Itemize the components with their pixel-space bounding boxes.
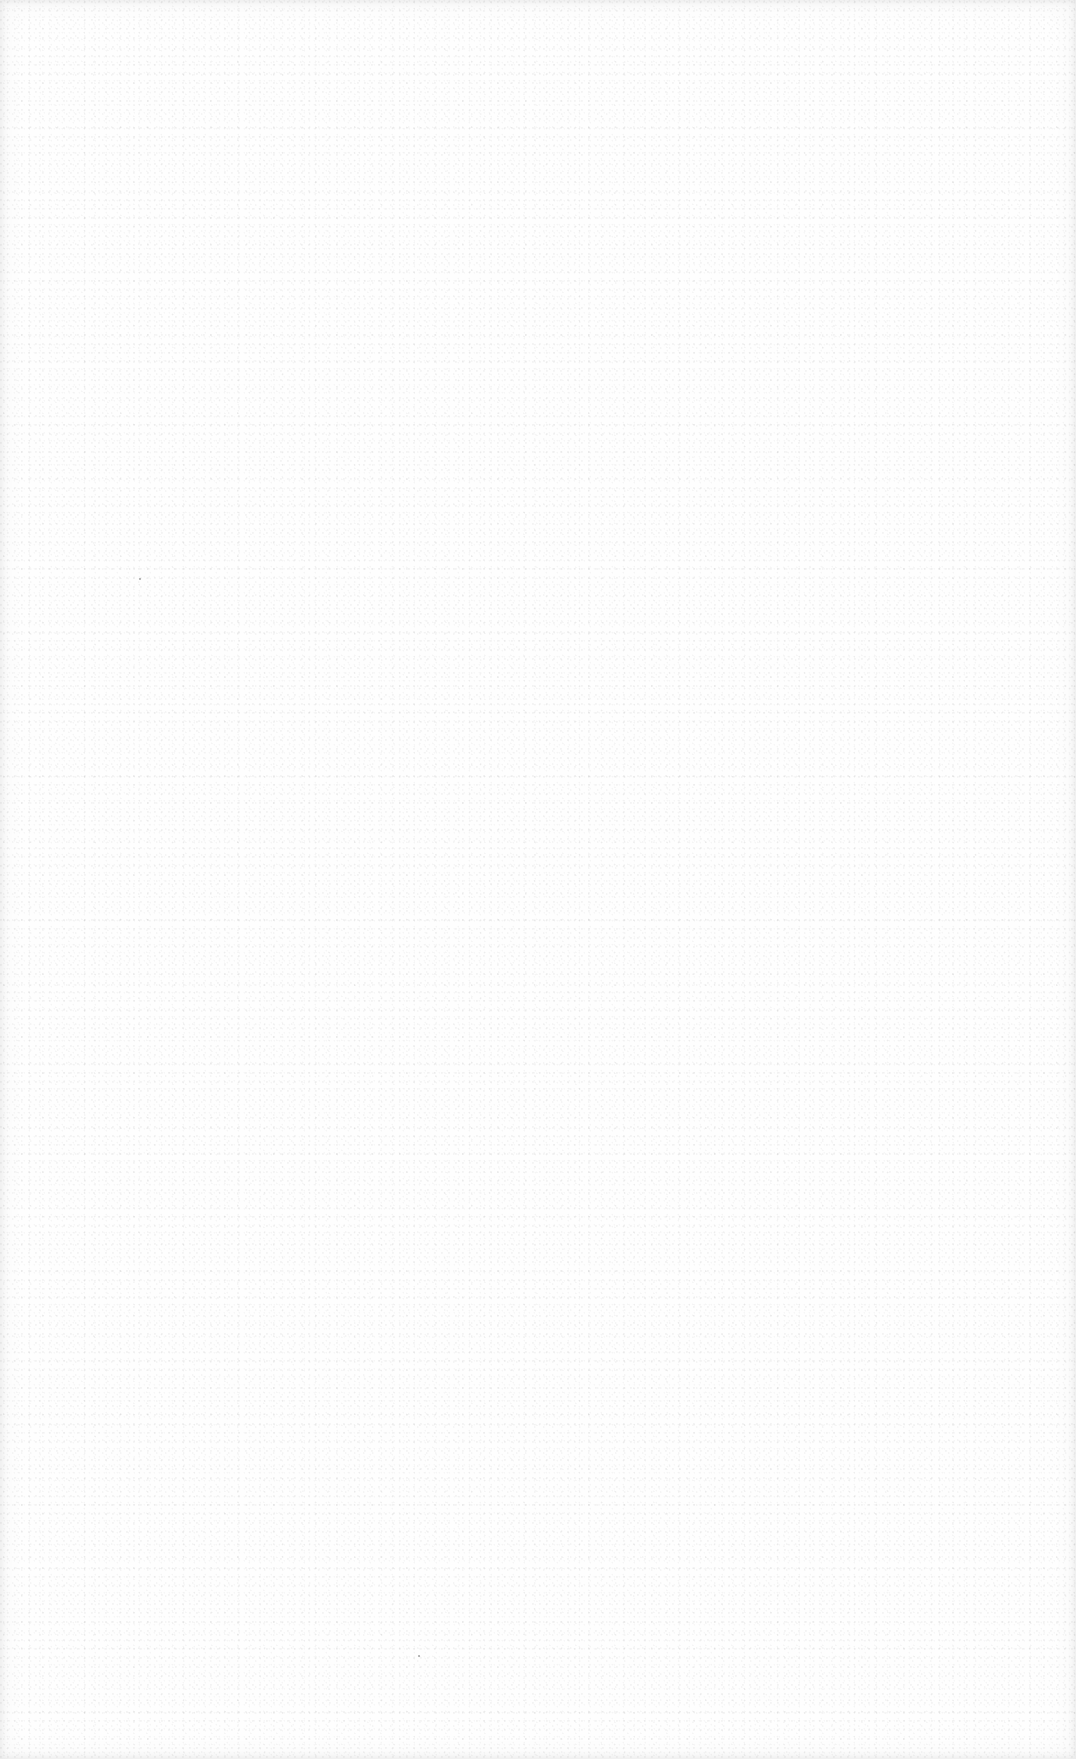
blank-paper-sheet [0,0,1076,1759]
stray-speck-mark [418,1655,420,1657]
stray-speck-mark [139,578,141,580]
paper-grain-texture [0,0,1076,1759]
